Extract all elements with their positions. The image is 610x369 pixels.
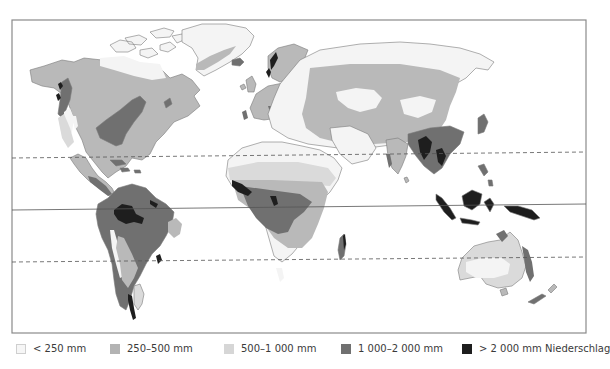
map-legend: < 250 mm 250–500 mm 500–1 000 mm 1 000–2… (0, 340, 601, 362)
legend-item-250-500: 250–500 mm (110, 343, 193, 354)
legend-swatch-lt-250 (16, 344, 26, 354)
legend-label: 1 000–2 000 mm (358, 343, 443, 354)
legend-item-500-1000: 500–1 000 mm (224, 343, 316, 354)
legend-swatch-250-500 (110, 344, 120, 354)
legend-label: > 2 000 mm Niederschlag (479, 343, 610, 354)
world-precipitation-map (0, 0, 601, 340)
legend-swatch-gt-2000 (462, 344, 472, 354)
legend-swatch-500-1000 (224, 344, 234, 354)
legend-swatch-1000-2000 (341, 344, 351, 354)
legend-item-lt-250: < 250 mm (16, 343, 86, 354)
legend-label: 250–500 mm (127, 343, 193, 354)
legend-label: 500–1 000 mm (241, 343, 316, 354)
legend-item-1000-2000: 1 000–2 000 mm (341, 343, 443, 354)
legend-label: < 250 mm (33, 343, 86, 354)
legend-item-gt-2000: > 2 000 mm Niederschlag (462, 343, 610, 354)
